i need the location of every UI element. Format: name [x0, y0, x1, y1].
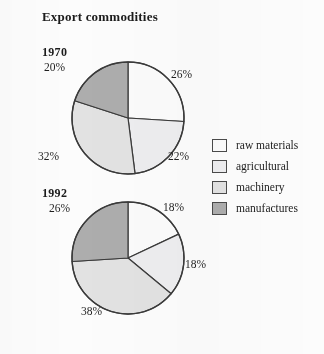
pie-1970-label-machinery: 32%: [38, 150, 59, 162]
pie-slice-agricultural: [128, 118, 184, 174]
legend-item-manufactures: manufactures: [212, 198, 324, 219]
legend-label-agricultural: agricultural: [236, 161, 289, 173]
pie-slice-manufactures: [72, 202, 128, 262]
export-commodities-figure: Export commodities 1970 20% 26% 22% 32% …: [0, 0, 324, 354]
figure-title: Export commodities: [42, 9, 158, 25]
legend: raw materials agricultural machinery man…: [212, 135, 324, 219]
legend-swatch-agricultural: [212, 160, 227, 173]
legend-swatch-manufactures: [212, 202, 227, 215]
pie-1992-svg: [68, 198, 188, 318]
legend-label-machinery: machinery: [236, 182, 285, 194]
pie-1970-label-manufactures: 20%: [44, 61, 65, 73]
legend-swatch-machinery: [212, 181, 227, 194]
pie-1992-label-agricultural: 18%: [185, 258, 206, 270]
chart-year-label-1970: 1970: [42, 45, 67, 60]
pie-1992-label-manufactures: 26%: [49, 202, 70, 214]
legend-label-raw-materials: raw materials: [236, 140, 298, 152]
legend-swatch-raw-materials: [212, 139, 227, 152]
legend-item-machinery: machinery: [212, 177, 324, 198]
pie-1970-label-agricultural: 22%: [168, 150, 189, 162]
pie-1992-label-machinery: 38%: [81, 305, 102, 317]
legend-item-agricultural: agricultural: [212, 156, 324, 177]
pie-1970-label-raw-materials: 26%: [171, 68, 192, 80]
legend-item-raw-materials: raw materials: [212, 135, 324, 156]
chart-year-label-1992: 1992: [42, 186, 67, 201]
pie-1992-label-raw-materials: 18%: [163, 201, 184, 213]
legend-label-manufactures: manufactures: [236, 203, 298, 215]
pie-chart-1992: [68, 198, 188, 318]
